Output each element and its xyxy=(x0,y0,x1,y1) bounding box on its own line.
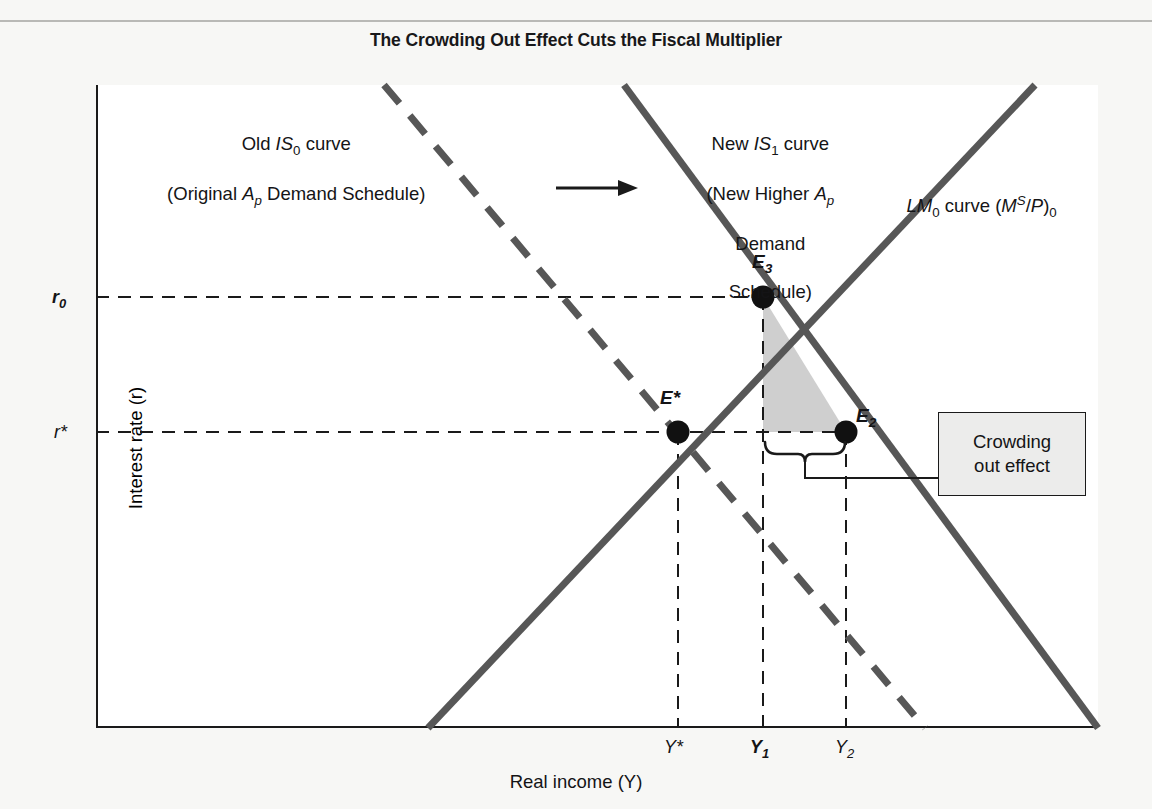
crowding-out-callout-line1: Crowding xyxy=(973,431,1051,452)
x-tick-label-y1: Y1 xyxy=(750,736,769,762)
point-label-e2: E2 xyxy=(856,404,876,431)
annotation-new-is1: New IS1 curve (New Higher Ap Demand Sche… xyxy=(650,108,870,327)
x-axis-title: Real income (Y) xyxy=(0,770,1152,794)
y-tick-label-r-star: r* xyxy=(54,421,67,444)
equilibrium-dot-e-star xyxy=(667,421,690,444)
annotation-new-is1-line4: Schedule) xyxy=(729,281,812,302)
point-label-e3: E3 xyxy=(752,250,772,277)
crowding-out-callout-text: Crowding out effect xyxy=(973,430,1051,478)
point-label-e-star: E* xyxy=(660,386,680,410)
annotation-old-is0: Old IS0 curve (Original Ap Demand Schedu… xyxy=(96,108,476,232)
crowding-out-callout-box: Crowding out effect xyxy=(938,412,1086,496)
annotation-new-is1-line1: New IS1 curve xyxy=(712,133,829,154)
x-tick-label-y2: Y2 xyxy=(835,736,854,762)
crowding-out-brace xyxy=(765,442,845,462)
y-tick-label-r0: r0 xyxy=(52,286,66,312)
annotation-old-is0-line2: (Original Ap Demand Schedule) xyxy=(167,183,425,204)
figure-page: The Crowding Out Effect Cuts the Fiscal … xyxy=(0,0,1152,809)
annotation-new-is1-line2: (New Higher Ap xyxy=(706,183,834,204)
x-tick-label-y-star: Y* xyxy=(664,736,683,759)
equilibrium-dot-e2 xyxy=(835,421,858,444)
rightward-shift-arrow xyxy=(556,180,638,196)
crowding-out-connector xyxy=(805,462,938,478)
crowding-out-callout-line2: out effect xyxy=(974,455,1050,476)
annotation-lm0: LM0 curve (MS/P)0 xyxy=(886,168,1057,244)
annotation-old-is0-line1: Old IS0 curve xyxy=(242,133,351,154)
